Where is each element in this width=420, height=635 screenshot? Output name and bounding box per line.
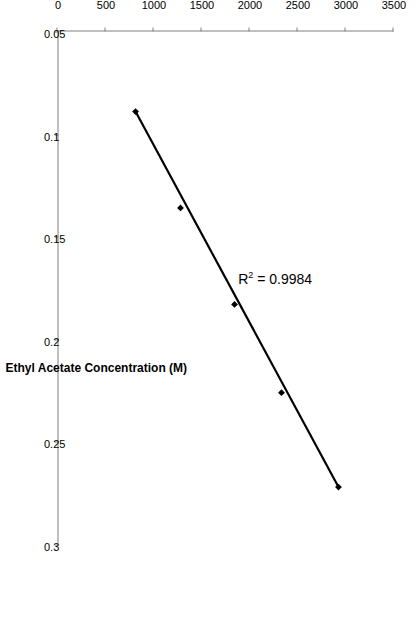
y-axis-tick-label: 500 [89,0,123,11]
x-axis-tick-label: 0.25 [44,439,65,450]
trendline [135,111,338,487]
y-axis-tick [200,27,201,31]
r-squared-value: = 0.9984 [253,270,312,286]
chart-stage: 0.050.10.150.20.250.3 050010001500200025… [0,0,420,635]
y-axis-tick-label: 1000 [137,0,171,11]
x-axis-tick-label: 0.1 [44,131,59,142]
y-axis-tick-label: 3500 [377,0,411,11]
y-axis-tick [344,27,345,31]
data-point-marker [335,483,342,490]
y-axis-tick-label: 0 [41,0,75,11]
x-axis-tick-label: 0.2 [44,336,59,347]
y-axis-tick-label: 1500 [185,0,219,11]
data-point-marker [177,204,184,211]
r-squared-prefix: R [238,270,248,286]
x-axis-tick-label: 0.3 [44,542,59,553]
y-axis-tick [296,27,297,31]
y-axis-tick-label: 2000 [233,0,267,11]
y-axis-tick [152,27,153,31]
y-axis-tick [104,27,105,31]
r-squared-annotation: R2 = 0.9984 [238,271,312,286]
y-axis-tick [392,27,393,31]
data-series-svg [57,31,393,544]
y-axis-tick [248,27,249,31]
x-axis-tick-label: 0.15 [44,234,65,245]
y-axis-tick-label: 3000 [329,0,363,11]
data-point-marker [231,301,238,308]
calibration-chart-figure: 0.050.10.150.20.250.3 050010001500200025… [0,0,420,635]
plot-area [57,30,393,543]
y-axis-tick-label: 2500 [281,0,315,11]
x-axis-tick-label: 0.05 [44,29,65,40]
data-point-marker [278,389,285,396]
series-group [132,108,342,490]
x-axis-title: Ethyl Acetate Concentration (M) [5,361,187,373]
